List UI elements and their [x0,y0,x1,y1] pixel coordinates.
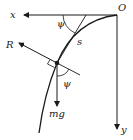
angle-label-bottom: ψ [63,78,71,89]
angle-label-top: ψ [57,18,65,29]
arc-length-label: s [77,36,82,47]
normal-force-arrow [19,43,57,63]
angle-arc-bottom [57,69,69,76]
particle [55,61,60,66]
normal-force-label: R [5,39,14,50]
weight-label: mg [49,108,65,119]
origin-label: O [118,2,126,13]
y-axis-label: y [120,124,127,135]
tangent-extension [57,63,80,75]
diagram-canvas: x O y R mg s ψ ψ [0,0,133,140]
x-axis-label: x [10,9,16,20]
